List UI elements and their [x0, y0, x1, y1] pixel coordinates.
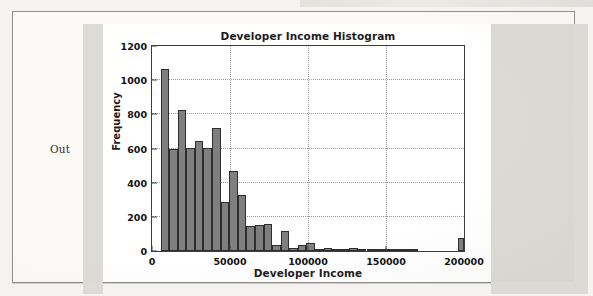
- chart-title: Developer Income Histogram: [151, 30, 465, 42]
- cell-gutter-band: [83, 24, 103, 294]
- y-axis-tick-mark: [152, 80, 157, 81]
- matplotlib-figure: Developer Income Histogram Frequency 020…: [103, 24, 491, 282]
- histogram-bar: [221, 202, 230, 251]
- histogram-bar: [375, 249, 384, 251]
- gridline-vertical: [308, 46, 309, 251]
- x-axis-label: Developer Income: [151, 267, 465, 279]
- x-axis-tick-mark: [386, 246, 387, 251]
- histogram-bar: [358, 249, 367, 251]
- histogram-bar: [178, 110, 187, 251]
- histogram-bar: [186, 148, 195, 251]
- y-axis-tick-mark: [152, 251, 157, 252]
- histogram-bar: [161, 69, 170, 251]
- gridline-vertical: [386, 46, 387, 251]
- y-axis-tick-label: 200: [127, 211, 147, 222]
- y-axis-tick-label: 1200: [121, 41, 147, 52]
- histogram-bar: [392, 249, 401, 251]
- page-shading-right: [491, 24, 588, 294]
- y-axis-tick-mark: [152, 46, 157, 47]
- scan-edge-artifact: [300, 0, 593, 7]
- x-axis-tick-label: 150000: [366, 256, 406, 267]
- notebook-output-panel: Out Developer Income Histogram Frequency…: [12, 11, 575, 283]
- y-axis-tick-label: 0: [140, 246, 147, 257]
- histogram-bar: [169, 149, 178, 251]
- y-axis-tick-mark: [152, 182, 157, 183]
- x-axis-tick-label: 0: [149, 256, 156, 267]
- x-axis-tick-mark: [152, 246, 153, 251]
- histogram-bar: [324, 248, 333, 251]
- histogram-bar: [238, 195, 247, 251]
- y-axis-tick-mark: [152, 148, 157, 149]
- histogram-bar: [203, 148, 212, 251]
- histogram-bar: [315, 249, 324, 251]
- y-axis-label: Frequency: [111, 77, 122, 167]
- histogram-bar: [289, 248, 298, 251]
- x-axis-tick-mark: [464, 246, 465, 251]
- x-axis-tick-label: 50000: [213, 256, 246, 267]
- histogram-bar: [272, 245, 281, 251]
- x-axis-tick-mark: [230, 246, 231, 251]
- histogram-bar: [332, 249, 341, 251]
- x-axis-tick-label: 100000: [288, 256, 328, 267]
- scanned-page: Out Developer Income Histogram Frequency…: [0, 0, 593, 296]
- histogram-bar: [195, 141, 204, 251]
- y-axis-tick-label: 1000: [121, 75, 147, 86]
- histogram-bar: [246, 226, 255, 251]
- histogram-bar: [255, 225, 264, 251]
- histogram-bar: [409, 249, 418, 251]
- output-prompt-label: Out: [31, 143, 89, 155]
- histogram-bar: [401, 249, 410, 251]
- x-axis-tick-label: 200000: [444, 256, 484, 267]
- y-axis-tick-mark: [152, 114, 157, 115]
- y-axis-tick-label: 800: [127, 109, 147, 120]
- histogram-bar: [281, 231, 290, 251]
- y-axis-tick-mark: [152, 216, 157, 217]
- histogram-bar: [349, 248, 358, 251]
- histogram-bar: [229, 171, 238, 251]
- histogram-bar: [264, 224, 273, 251]
- plot-area: 0200400600800100012000500001000001500002…: [151, 45, 465, 252]
- y-axis-tick-label: 400: [127, 177, 147, 188]
- histogram-bar: [367, 249, 376, 251]
- histogram-bar: [298, 245, 307, 251]
- x-axis-tick-mark: [308, 246, 309, 251]
- plot-inner: [152, 46, 464, 251]
- histogram-bar: [212, 128, 221, 251]
- y-axis-tick-label: 600: [127, 143, 147, 154]
- histogram-bar: [341, 249, 350, 251]
